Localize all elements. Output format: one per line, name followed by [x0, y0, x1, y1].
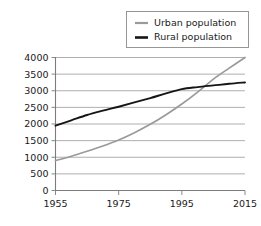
y-axis-ticks: 05001000150020002500300035004000 — [24, 52, 55, 196]
chart-canvas: 05001000150020002500300035004000 1955197… — [0, 0, 261, 226]
series-line-urban-population — [56, 58, 246, 161]
legend-label-rural: Rural population — [154, 31, 232, 42]
y-tick-label: 0 — [42, 185, 48, 196]
data-series — [56, 58, 246, 161]
legend-label-urban: Urban population — [154, 17, 236, 28]
y-tick-label: 2500 — [24, 102, 48, 113]
legend: Urban populationRural population — [127, 12, 249, 48]
x-tick-label: 1975 — [107, 198, 131, 209]
y-tick-label: 1500 — [24, 135, 48, 146]
x-tick-label: 1955 — [43, 198, 67, 209]
y-tick-label: 500 — [30, 168, 48, 179]
y-tick-label: 1000 — [24, 152, 48, 163]
line-chart: 05001000150020002500300035004000 1955197… — [0, 0, 261, 226]
y-tick-label: 3000 — [24, 85, 48, 96]
y-tick-label: 3500 — [24, 69, 48, 80]
y-tick-label: 4000 — [24, 52, 48, 63]
x-tick-label: 2015 — [233, 198, 257, 209]
x-tick-label: 1995 — [170, 198, 194, 209]
y-tick-label: 2000 — [24, 118, 48, 129]
x-axis-ticks: 1955197519952015 — [43, 191, 257, 209]
series-line-rural-population — [56, 82, 246, 125]
